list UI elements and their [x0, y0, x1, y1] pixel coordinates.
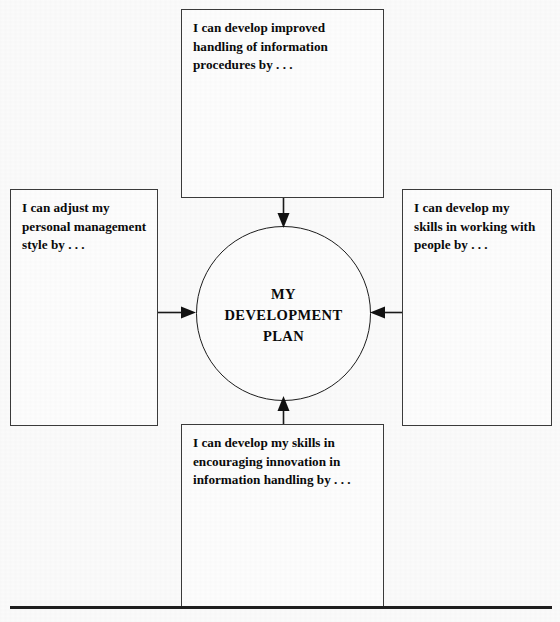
development-box-left-text: I can adjust my personal management styl…: [11, 190, 157, 255]
arrow-right-to-center-icon: [370, 307, 402, 319]
diagram-page: I can develop improved handling of infor…: [0, 0, 560, 622]
development-box-bottom-text: I can develop my skills in encouraging i…: [182, 425, 383, 490]
page-bottom-rule: [10, 606, 552, 609]
development-box-right-text: I can develop my skills in working with …: [403, 190, 551, 255]
development-plan-label: MY DEVELOPMENT PLAN: [225, 284, 343, 347]
development-box-left[interactable]: I can adjust my personal management styl…: [10, 189, 158, 426]
arrow-top-to-center-icon: [278, 198, 290, 228]
development-box-top[interactable]: I can develop improved handling of infor…: [181, 9, 384, 198]
development-plan-circle[interactable]: MY DEVELOPMENT PLAN: [196, 226, 371, 401]
development-box-top-text: I can develop improved handling of infor…: [182, 10, 383, 75]
arrow-left-to-center-icon: [158, 307, 196, 319]
development-box-right[interactable]: I can develop my skills in working with …: [402, 189, 552, 426]
development-box-bottom[interactable]: I can develop my skills in encouraging i…: [181, 424, 384, 608]
